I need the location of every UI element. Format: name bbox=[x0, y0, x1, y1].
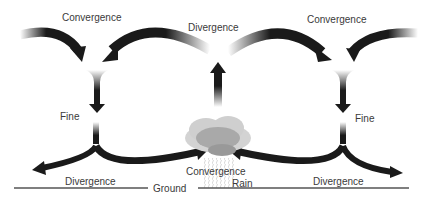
arrow-convergence-top-left-b bbox=[102, 33, 210, 63]
arrow-convergence-top-right-a bbox=[228, 34, 332, 63]
arrow-surface-left bbox=[32, 122, 208, 175]
label-ground: Ground bbox=[153, 184, 186, 194]
label-divergence-bottom-left: Divergence bbox=[65, 177, 116, 187]
arrow-downdraft-right bbox=[332, 70, 354, 113]
arrow-convergence-top-left-a bbox=[20, 32, 86, 62]
label-convergence-top-left: Convergence bbox=[62, 13, 121, 23]
arrow-convergence-top-right-b bbox=[346, 33, 418, 62]
label-convergence-top-right: Convergence bbox=[307, 15, 366, 25]
label-fine-left: Fine bbox=[60, 112, 79, 122]
label-fine-right: Fine bbox=[355, 114, 374, 124]
label-convergence-bottom: Convergence bbox=[186, 167, 245, 177]
arrow-downdraft-left bbox=[86, 70, 108, 113]
label-divergence-bottom-right: Divergence bbox=[313, 177, 364, 187]
label-divergence-top: Divergence bbox=[188, 23, 239, 33]
arrow-surface-right bbox=[228, 122, 403, 178]
label-rain: Rain bbox=[232, 179, 253, 189]
arrow-updraft-center bbox=[210, 62, 226, 107]
